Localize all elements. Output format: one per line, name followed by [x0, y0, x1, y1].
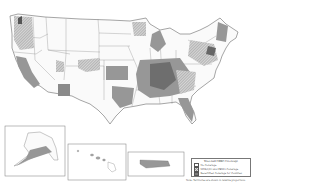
legend-label: Recertified Coverage for Counties: [201, 172, 242, 175]
legend-label: MDS/QIO and FEMA Coverage: [201, 168, 239, 171]
swatch-solid-icon: [194, 172, 199, 176]
map-note: Note: Territories are shown in relative …: [186, 179, 245, 182]
hawaii-inset: [68, 144, 126, 180]
legend-item-recertified: Recertified Coverage for Counties: [194, 172, 248, 176]
legend-label: No Coverage: [201, 164, 217, 167]
map-legend: Year-end CDBG Coverage No Coverage MDS/Q…: [191, 158, 251, 177]
